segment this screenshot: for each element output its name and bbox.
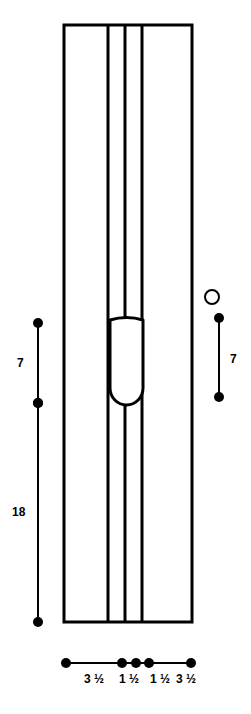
right-dimension-7-label: 7 [230, 353, 237, 365]
bottom-dimension-label-4: 3 ½ [176, 673, 196, 685]
bottom-dimension-dot-4 [144, 658, 154, 668]
bottom-dimension-label-1: 3 ½ [84, 673, 104, 685]
circle-marker [205, 290, 219, 304]
bottom-dimension-dot-2 [117, 658, 127, 668]
left-dimension-18-start-dot [33, 398, 43, 408]
right-dimension-7-start-dot [214, 313, 224, 323]
left-dimension-7-start-dot [33, 318, 43, 328]
right-dimension-7-end-dot [214, 392, 224, 402]
technical-drawing: 7 18 7 3 ½ 1 ½ 1 ½ 3 ½ [0, 0, 251, 714]
left-dimension-7-group [33, 318, 43, 408]
left-dimension-18-label: 18 [12, 506, 25, 518]
left-dimension-18-group [33, 398, 43, 627]
slot-feature [110, 318, 143, 406]
drawing-canvas [0, 0, 251, 714]
bottom-dimension-label-2: 1 ½ [119, 673, 139, 685]
left-dimension-18-end-dot [33, 617, 43, 627]
bottom-dimension-chain-group [61, 658, 196, 668]
bottom-dimension-dot-3 [131, 658, 141, 668]
bottom-dimension-dot-1 [61, 658, 71, 668]
left-dimension-7-label: 7 [17, 357, 24, 369]
right-dimension-7-group [214, 313, 224, 402]
bottom-dimension-label-3: 1 ½ [150, 673, 170, 685]
bottom-dimension-dot-5 [186, 658, 196, 668]
